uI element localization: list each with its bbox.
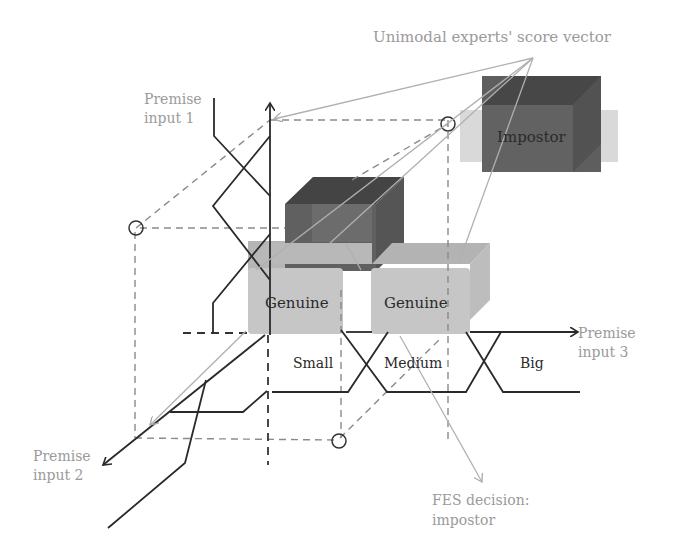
fuzzy-set-medium: Medium: [384, 355, 442, 371]
genuine-box-left-label: Genuine: [265, 294, 329, 312]
score-vector-title: Unimodal experts' score vector: [373, 28, 612, 46]
fuzzy-set-small: Small: [293, 355, 334, 371]
genuine-box-left: [248, 241, 372, 334]
decision-label-line1: FES decision:: [432, 492, 529, 508]
axis-label-input-3-line2: input 3: [578, 344, 628, 360]
axis-label-input-2-line1: Premise: [33, 448, 91, 464]
impostor-box-label: Impostor: [497, 128, 567, 146]
fes-diagram: Unimodal experts' score vector Premise i…: [0, 0, 673, 554]
decision-label-line2: impostor: [432, 512, 495, 528]
score-point-3: [332, 434, 346, 448]
axis-label-input-1-line2: input 1: [144, 110, 194, 126]
genuine-box-right: [371, 243, 490, 334]
impostor-box: [460, 76, 618, 172]
axis-label-input-2-line2: input 2: [33, 467, 83, 483]
origin-dashes: [183, 333, 268, 465]
axis-label-input-3-line1: Premise: [578, 325, 636, 341]
axis-input-2: [103, 335, 267, 528]
fuzzy-set-big: Big: [520, 355, 544, 371]
genuine-box-right-label: Genuine: [384, 294, 448, 312]
axis-label-input-1-line1: Premise: [144, 91, 202, 107]
